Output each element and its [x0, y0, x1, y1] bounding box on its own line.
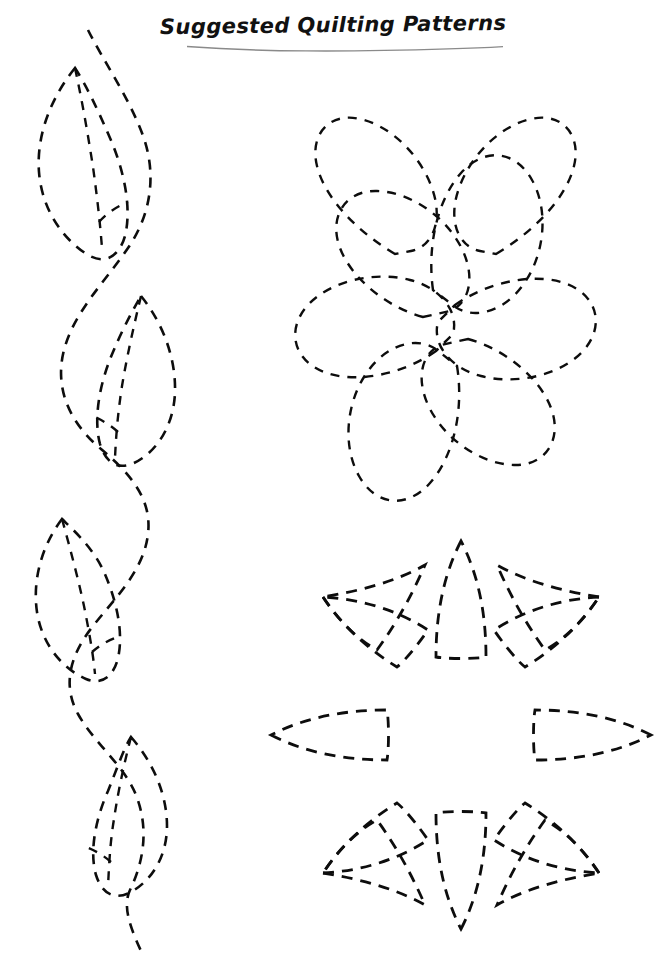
leaf-3-vein-branch	[92, 636, 121, 652]
pattern-loop-wreath	[295, 118, 596, 501]
leaf-4-vein-branch	[86, 847, 111, 862]
leaf-3-outline	[36, 519, 120, 681]
leaf-1-vein	[75, 68, 102, 248]
flower-petal-southwest	[323, 803, 428, 873]
pattern-leaf-vine	[36, 30, 175, 951]
flower-petal-southeast	[494, 803, 599, 873]
leaf-2-vein-branch	[91, 415, 118, 432]
flower-petal-northeast-outer	[497, 565, 599, 650]
wreath-loop-8	[454, 118, 575, 254]
flower-petal-west	[271, 710, 389, 760]
flower-petal-north	[436, 541, 486, 659]
flower-petal-southwest-outer	[323, 820, 425, 905]
flower-petal-northwest	[323, 597, 428, 667]
vine-stem-main	[61, 30, 150, 951]
leaf-2-outline	[97, 296, 175, 466]
quilting-pattern-sheet: Suggested Quilting Patterns	[0, 0, 666, 968]
flower-petal-northwest-outer	[323, 565, 425, 650]
flower-petal-east	[534, 710, 652, 760]
pattern-eight-petal-flower	[271, 541, 651, 929]
wreath-loop-6	[336, 191, 469, 317]
wreath-loop-3	[422, 339, 555, 465]
flower-petal-southeast-outer	[497, 820, 599, 905]
quilting-patterns-artwork	[0, 0, 666, 968]
flower-petal-south	[436, 812, 486, 930]
wreath-loop-7	[315, 118, 436, 254]
leaf-4-outline	[93, 737, 167, 896]
flower-petal-northeast	[494, 597, 599, 667]
wreath-loop-4	[348, 343, 459, 501]
leaf-1-outline	[39, 68, 128, 259]
leaf-1-vein-branch	[99, 202, 128, 222]
